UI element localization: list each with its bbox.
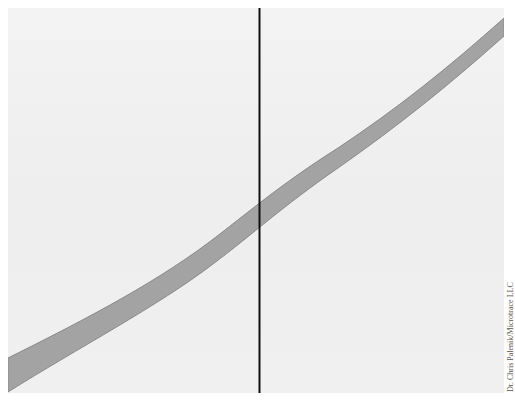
photo-credit: Dr. Chris Palenik/Microtrace LLC [506,282,515,392]
micrograph [8,8,504,393]
fiber-graphic [8,8,504,393]
